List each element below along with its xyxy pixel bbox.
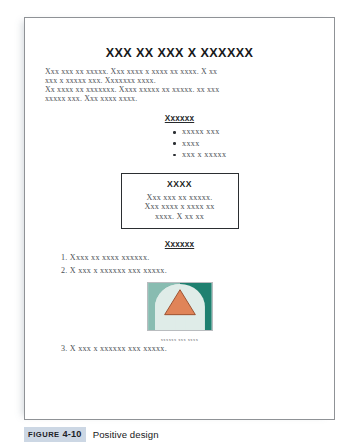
triangle-dome-graphic	[147, 282, 213, 331]
figure-block: xxxxxx xxx xxxx	[147, 282, 213, 343]
bullet-section-heading: Xxxxxx	[45, 114, 314, 123]
figure-label-number: 4-10	[62, 429, 81, 439]
document-page: XXX XX XXX X XXXXXX Xxx xxx xx xxxxx. Xx…	[24, 17, 335, 420]
page-title: XXX XX XXX X XXXXXX	[45, 46, 314, 60]
list-item: 3. X xxx x xxxxxx xxx xxxxx.	[45, 343, 314, 356]
paragraph-line: xxx x xxxxx xxx. Xxxxxxx xxxx.	[45, 76, 314, 85]
figure-label-word: FIGURE	[28, 430, 60, 439]
callout-line: xxxx. X xx xx	[126, 212, 234, 222]
callout-box: XXXX Xxx xxx xx xxxxx. Xxx xxxx x xxxx x…	[121, 173, 239, 229]
list-item: xxxxx xxx	[182, 126, 314, 137]
paragraph-line: Xx xxxx xx xxxxxxx. Xxxx xxxxx xx xxxxx.…	[45, 85, 314, 94]
list-item: xxxx	[182, 138, 314, 149]
figure-caption: FIGURE 4-10 Positive design	[24, 427, 159, 441]
intro-paragraph: Xxx xxx xx xxxxx. Xxx xxxx x xxxx xx xxx…	[45, 67, 314, 103]
paragraph-line: xxxxx xxx. Xxx xxxx xxxx.	[45, 94, 314, 103]
bullet-list: xxxxx xxx xxxx xxx x xxxxx	[45, 126, 314, 160]
figure-title-text: Positive design	[93, 429, 159, 440]
callout-title: XXXX	[126, 179, 234, 189]
callout-line: Xxx xxx xx xxxxx.	[126, 193, 234, 203]
list-item: 1. Xxxx xx xxxx xxxxxx.	[45, 252, 314, 265]
document-content: XXX XX XXX X XXXXXX Xxx xxx xx xxxxx. Xx…	[25, 18, 334, 419]
callout-line: Xxx xxxx x xxxx xx	[126, 202, 234, 212]
figure-number-badge: FIGURE 4-10	[24, 427, 86, 442]
numbered-list-continued: 3. X xxx x xxxxxx xxx xxxxx.	[45, 343, 314, 356]
paragraph-line: Xxx xxx xx xxxxx. Xxx xxxx x xxxx xx xxx…	[45, 67, 314, 76]
numbered-list: 1. Xxxx xx xxxx xxxxxx. 2. X xxx x xxxxx…	[45, 252, 314, 277]
list-item: xxx x xxxxx	[182, 149, 314, 160]
numbered-section-heading: Xxxxxx	[45, 240, 314, 249]
list-item: 2. X xxx x xxxxxx xxx xxxxx.	[45, 265, 314, 278]
